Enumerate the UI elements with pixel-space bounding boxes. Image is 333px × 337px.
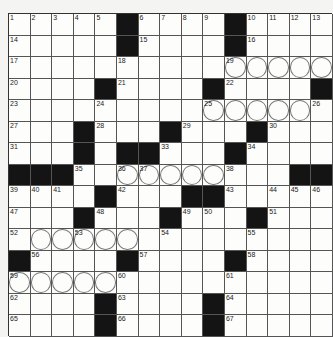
grid-cell[interactable]: 30 — [268, 122, 290, 144]
grid-cell[interactable] — [247, 57, 269, 79]
grid-cell[interactable]: 21 — [117, 79, 139, 101]
grid-cell[interactable]: 28 — [95, 122, 117, 144]
grid-cell[interactable] — [247, 165, 269, 187]
grid-cell[interactable] — [203, 122, 225, 144]
grid-cell[interactable]: 47 — [9, 208, 31, 230]
grid-cell[interactable]: 15 — [139, 36, 161, 58]
grid-cell[interactable] — [247, 100, 269, 122]
grid-cell[interactable] — [203, 57, 225, 79]
grid-cell[interactable]: 1 — [9, 14, 31, 36]
grid-cell[interactable] — [117, 122, 139, 144]
grid-cell[interactable] — [31, 100, 53, 122]
grid-cell[interactable] — [52, 57, 74, 79]
grid-cell[interactable]: 14 — [9, 36, 31, 58]
grid-cell[interactable] — [290, 208, 312, 230]
grid-cell[interactable]: 46 — [311, 186, 333, 208]
grid-cell[interactable] — [52, 79, 74, 101]
grid-cell[interactable]: 57 — [139, 251, 161, 273]
grid-cell[interactable] — [95, 36, 117, 58]
grid-cell[interactable] — [139, 294, 161, 316]
grid-cell[interactable] — [139, 315, 161, 337]
grid-cell[interactable]: 61 — [225, 272, 247, 294]
grid-cell[interactable] — [160, 294, 182, 316]
grid-cell[interactable] — [268, 165, 290, 187]
grid-cell[interactable]: 66 — [117, 315, 139, 337]
grid-cell[interactable] — [311, 229, 333, 251]
grid-cell[interactable] — [31, 208, 53, 230]
grid-cell[interactable]: 58 — [247, 251, 269, 273]
grid-cell[interactable] — [182, 100, 204, 122]
grid-cell[interactable]: 26 — [311, 100, 333, 122]
grid-cell[interactable]: 63 — [117, 294, 139, 316]
grid-cell[interactable] — [95, 57, 117, 79]
grid-cell[interactable] — [95, 251, 117, 273]
grid-cell[interactable] — [160, 315, 182, 337]
grid-cell[interactable] — [311, 143, 333, 165]
grid-cell[interactable]: 25 — [203, 100, 225, 122]
grid-cell[interactable] — [182, 57, 204, 79]
grid-cell[interactable] — [290, 100, 312, 122]
grid-cell[interactable] — [95, 143, 117, 165]
grid-cell[interactable] — [182, 165, 204, 187]
grid-cell[interactable] — [311, 208, 333, 230]
grid-cell[interactable] — [160, 165, 182, 187]
grid-cell[interactable] — [160, 79, 182, 101]
grid-cell[interactable]: 51 — [268, 208, 290, 230]
grid-cell[interactable] — [74, 57, 96, 79]
grid-cell[interactable] — [139, 186, 161, 208]
grid-cell[interactable] — [290, 294, 312, 316]
grid-cell[interactable] — [290, 36, 312, 58]
grid-cell[interactable] — [290, 143, 312, 165]
grid-cell[interactable]: 44 — [268, 186, 290, 208]
grid-cell[interactable] — [203, 143, 225, 165]
grid-cell[interactable] — [74, 100, 96, 122]
grid-cell[interactable] — [31, 272, 53, 294]
grid-cell[interactable]: 19 — [225, 57, 247, 79]
grid-cell[interactable] — [290, 122, 312, 144]
grid-cell[interactable] — [95, 165, 117, 187]
grid-cell[interactable] — [225, 100, 247, 122]
grid-cell[interactable] — [182, 143, 204, 165]
grid-cell[interactable]: 50 — [203, 208, 225, 230]
grid-cell[interactable] — [203, 165, 225, 187]
grid-cell[interactable]: 6 — [139, 14, 161, 36]
grid-cell[interactable]: 62 — [9, 294, 31, 316]
grid-cell[interactable] — [268, 294, 290, 316]
grid-cell[interactable]: 64 — [225, 294, 247, 316]
grid-cell[interactable] — [311, 122, 333, 144]
grid-cell[interactable]: 12 — [290, 14, 312, 36]
grid-cell[interactable] — [182, 229, 204, 251]
grid-cell[interactable] — [182, 251, 204, 273]
grid-cell[interactable] — [160, 186, 182, 208]
grid-cell[interactable] — [268, 36, 290, 58]
grid-cell[interactable]: 27 — [9, 122, 31, 144]
grid-cell[interactable] — [247, 294, 269, 316]
grid-cell[interactable]: 33 — [160, 143, 182, 165]
grid-cell[interactable] — [52, 229, 74, 251]
grid-cell[interactable]: 20 — [9, 79, 31, 101]
grid-cell[interactable]: 56 — [31, 251, 53, 273]
grid-cell[interactable] — [52, 294, 74, 316]
grid-cell[interactable] — [290, 229, 312, 251]
grid-cell[interactable]: 23 — [9, 100, 31, 122]
grid-cell[interactable]: 31 — [9, 143, 31, 165]
grid-cell[interactable]: 35 — [74, 165, 96, 187]
grid-cell[interactable] — [311, 36, 333, 58]
grid-cell[interactable]: 40 — [31, 186, 53, 208]
grid-cell[interactable]: 52 — [9, 229, 31, 251]
grid-cell[interactable]: 4 — [74, 14, 96, 36]
grid-cell[interactable] — [160, 57, 182, 79]
grid-cell[interactable] — [182, 272, 204, 294]
grid-cell[interactable]: 3 — [52, 14, 74, 36]
grid-cell[interactable]: 16 — [247, 36, 269, 58]
grid-cell[interactable] — [139, 79, 161, 101]
grid-cell[interactable] — [139, 208, 161, 230]
grid-cell[interactable] — [311, 57, 333, 79]
grid-cell[interactable] — [139, 272, 161, 294]
grid-cell[interactable]: 54 — [160, 229, 182, 251]
grid-cell[interactable] — [247, 186, 269, 208]
grid-cell[interactable] — [203, 251, 225, 273]
grid-cell[interactable] — [74, 186, 96, 208]
grid-cell[interactable] — [311, 315, 333, 337]
grid-cell[interactable] — [52, 36, 74, 58]
